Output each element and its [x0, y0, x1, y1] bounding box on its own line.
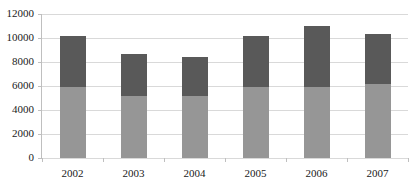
- x-axis-tick-labels: 200220032004200520062007: [43, 158, 409, 179]
- bar-segment: [121, 96, 147, 158]
- x-tick-label: 2007: [367, 167, 390, 179]
- bar-segment: [304, 26, 330, 87]
- y-tick-label: 0: [29, 151, 35, 163]
- x-tick-label: 2003: [123, 167, 146, 179]
- bar-segment: [243, 87, 269, 158]
- y-tick-label: 2000: [12, 127, 35, 139]
- bars: [60, 26, 391, 158]
- x-tick-label: 2005: [245, 167, 268, 179]
- bar-segment: [60, 87, 86, 158]
- bar-segment: [182, 57, 208, 96]
- bar-segment: [60, 36, 86, 87]
- bar-segment: [182, 96, 208, 158]
- bar-segment: [365, 34, 391, 84]
- bar-segment: [304, 87, 330, 158]
- y-tick-label: 4000: [12, 103, 35, 115]
- x-tick-label: 2004: [184, 167, 207, 179]
- x-tick-label: 2002: [62, 167, 84, 179]
- y-tick-label: 10000: [7, 31, 35, 43]
- y-tick-label: 12000: [7, 7, 35, 19]
- gridlines: [38, 15, 408, 159]
- bar-segment: [365, 84, 391, 158]
- stacked-bar-chart: 020004000600080001000012000 200220032004…: [0, 0, 417, 193]
- y-tick-label: 6000: [12, 79, 35, 91]
- y-tick-label: 8000: [12, 55, 35, 67]
- y-axis-tick-labels: 020004000600080001000012000: [7, 7, 35, 163]
- chart-canvas: 020004000600080001000012000 200220032004…: [0, 0, 417, 193]
- bar-segment: [121, 54, 147, 96]
- bar-segment: [243, 36, 269, 87]
- x-tick-label: 2006: [306, 167, 329, 179]
